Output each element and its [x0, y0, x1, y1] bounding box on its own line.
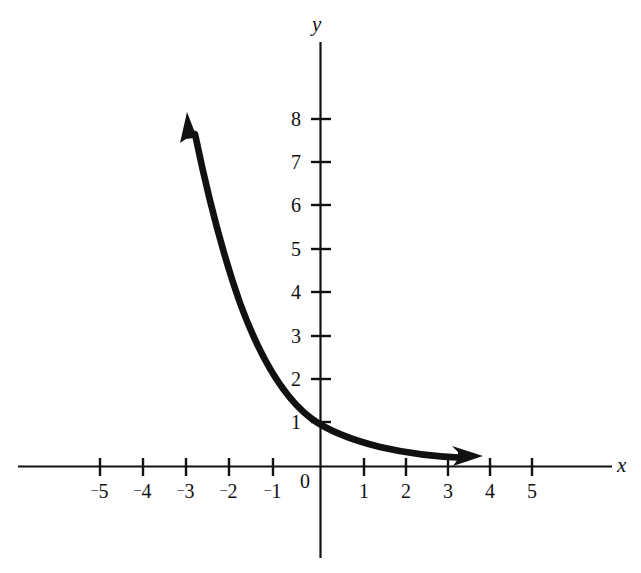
y-tick-label-1: 1: [283, 412, 301, 432]
x-tick-label-3: 3: [443, 481, 453, 501]
graph-figure: y x 0 –5 –4 –3 –2 –1 1 2 3 4 5 1 2 3 4 5…: [0, 0, 641, 573]
minus-sign-icon: –: [221, 481, 228, 496]
minus-sign-icon: –: [92, 481, 99, 496]
origin-label: 0: [300, 471, 310, 491]
y-tick-label-2: 2: [283, 369, 301, 389]
x-tick-digit: 2: [228, 480, 238, 502]
curve-arrowhead-up: [180, 112, 199, 143]
x-axis-label: x: [617, 455, 626, 476]
x-tick-label-5: 5: [527, 481, 537, 501]
y-tick-label-8: 8: [283, 109, 301, 129]
minus-sign-icon: –: [265, 481, 272, 496]
x-tick-label-1: 1: [359, 481, 369, 501]
x-tick-label--4: –4: [135, 481, 152, 501]
y-axis-label: y: [312, 14, 321, 35]
x-tick-digit: 1: [272, 480, 282, 502]
x-tick-label-4: 4: [485, 481, 495, 501]
x-tick-label--1: –1: [265, 481, 282, 501]
exponential-curve: [195, 134, 466, 458]
y-tick-label-6: 6: [283, 195, 301, 215]
x-tick-digit: 5: [99, 480, 109, 502]
y-tick-label-5: 5: [283, 239, 301, 259]
y-tick-label-3: 3: [283, 326, 301, 346]
x-tick-label--3: –3: [178, 481, 195, 501]
x-tick-label--2: –2: [221, 481, 238, 501]
y-tick-label-7: 7: [283, 152, 301, 172]
minus-sign-icon: –: [135, 481, 142, 496]
x-tick-label-2: 2: [401, 481, 411, 501]
x-tick-digit: 4: [142, 480, 152, 502]
x-tick-digit: 3: [185, 480, 195, 502]
x-tick-label--5: –5: [92, 481, 109, 501]
y-tick-label-4: 4: [283, 282, 301, 302]
minus-sign-icon: –: [178, 481, 185, 496]
